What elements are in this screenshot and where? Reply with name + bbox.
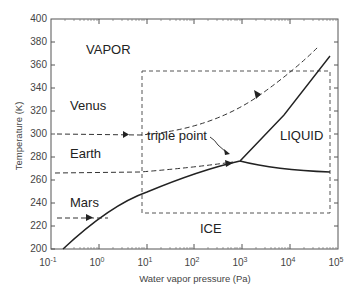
earth-arrow-icon	[225, 160, 233, 167]
triple-point-pointer	[210, 137, 226, 152]
y-axis-label: Temperature (K)	[13, 102, 24, 171]
melting-curve	[240, 161, 330, 172]
x-tick: 103	[232, 256, 247, 268]
x-tick: 101	[137, 256, 152, 268]
venus-arrow-icon	[254, 90, 261, 99]
y-tick: 320	[30, 105, 47, 116]
y-tick: 300	[30, 128, 47, 139]
venus-label: Venus	[70, 98, 107, 113]
x-tick: 105	[328, 256, 343, 268]
y-tick: 220	[30, 220, 47, 231]
ice-label: ICE	[200, 221, 222, 236]
venus-arrow-icon	[123, 131, 129, 138]
x-tick: 10-1	[39, 256, 56, 268]
triple-point-arrow-icon	[224, 149, 230, 155]
mars-arrow-icon	[86, 214, 93, 221]
mars-label: Mars	[70, 195, 99, 210]
y-tick: 400	[30, 13, 47, 24]
earth-label: Earth	[70, 146, 101, 161]
y-tick: 340	[30, 82, 47, 93]
liquid-label: LIQUID	[280, 128, 323, 143]
x-tick: 102	[184, 256, 199, 268]
phase-diagram: 200 220 240 260 280 300 320 340 360 380 …	[0, 0, 362, 297]
vapor-boundary-curve	[63, 56, 330, 249]
y-tick-labels: 200 220 240 260 280 300 320 340 360 380 …	[30, 13, 47, 254]
x-tick-labels: 10-1 100 101 102 103 104 105	[39, 256, 343, 268]
y-tick: 280	[30, 151, 47, 162]
triple-point-label: triple point	[147, 128, 207, 143]
venus-path	[57, 47, 318, 135]
x-tick: 104	[280, 256, 295, 268]
y-tick: 200	[30, 243, 47, 254]
x-tick: 100	[89, 256, 104, 268]
y-tick: 380	[30, 36, 47, 47]
y-tick: 240	[30, 197, 47, 208]
x-axis-label: Water vapor pressure (Pa)	[139, 273, 251, 284]
y-tick: 360	[30, 59, 47, 70]
vapor-label: VAPOR	[86, 42, 131, 57]
earth-path	[55, 162, 233, 173]
y-tick: 260	[30, 174, 47, 185]
